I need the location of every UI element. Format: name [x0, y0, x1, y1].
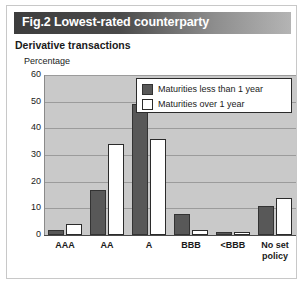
legend-label: Maturities over 1 year [158, 99, 245, 109]
y-axis-tick-label: 0 [11, 229, 41, 239]
y-axis-tick-labels: 0102030405060 [7, 6, 41, 284]
legend-swatch-icon [142, 84, 153, 95]
x-axis-tick-label: A [128, 240, 170, 251]
bar [66, 224, 82, 235]
bar [174, 214, 190, 235]
legend-swatch-icon [142, 99, 153, 110]
bar [150, 139, 166, 235]
legend-label: Maturities less than 1 year [158, 84, 263, 94]
y-axis-tick-label: 40 [11, 122, 41, 132]
y-axis-tick-label: 20 [11, 176, 41, 186]
y-axis-tick-label: 30 [11, 149, 41, 159]
y-axis-tick-label: 60 [11, 69, 41, 79]
x-axis-tick-label: No set policy [254, 240, 296, 262]
x-axis-baseline [44, 235, 296, 236]
x-axis-tick-label: AAA [44, 240, 86, 251]
bar-group [86, 75, 128, 235]
y-axis-line [44, 75, 45, 236]
figure-panel: Fig.2 Lowest-rated counterparty Derivati… [6, 5, 297, 279]
figure-title-banner: Fig.2 Lowest-rated counterparty [14, 12, 291, 34]
bar-group [44, 75, 86, 235]
chart-legend: Maturities less than 1 yearMaturities ov… [136, 78, 292, 113]
y-axis-tick-label: 50 [11, 96, 41, 106]
x-axis-tick-label: BBB [170, 240, 212, 251]
x-axis-tick-label: AA [86, 240, 128, 251]
y-axis-tick-label: 10 [11, 202, 41, 212]
bar [108, 144, 124, 235]
bar [132, 104, 148, 235]
x-axis-tick-labels: AAAAAABBB<BBBNo set policy [44, 240, 296, 284]
bar [90, 190, 106, 235]
figure-title: Fig.2 Lowest-rated counterparty [22, 15, 209, 29]
x-axis-tick-label: <BBB [212, 240, 254, 251]
bar [276, 198, 292, 235]
bar [258, 206, 274, 235]
